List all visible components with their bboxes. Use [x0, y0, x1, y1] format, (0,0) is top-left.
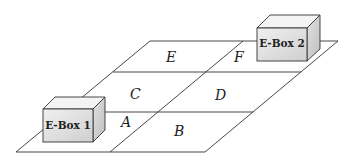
- cell-labels: E F C D A B: [119, 49, 245, 139]
- cell-label-c: C: [130, 86, 141, 102]
- cell-label-a: A: [119, 114, 131, 130]
- ebox-1-label: E-Box 1: [45, 119, 91, 131]
- ebox-2-label: E-Box 2: [259, 37, 305, 49]
- grid-diagram: E F C D A B E-Box 1 E-Box 2: [0, 0, 354, 160]
- ebox-2: E-Box 2: [257, 15, 320, 61]
- cell-label-e: E: [165, 49, 176, 65]
- cell-label-d: D: [214, 87, 226, 103]
- cell-label-f: F: [233, 49, 245, 65]
- ebox-1: E-Box 1: [43, 97, 105, 142]
- cell-label-b: B: [173, 123, 184, 139]
